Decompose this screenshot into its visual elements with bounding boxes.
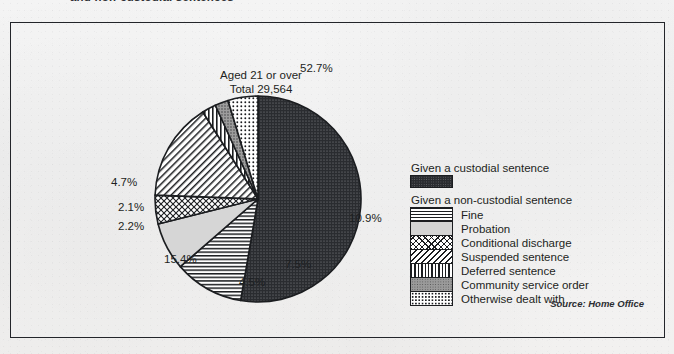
cut-off-section-heading: and non-custodial sentences	[70, 0, 370, 3]
legend-item-label: Community service order	[461, 279, 589, 291]
legend-swatch-fine	[411, 208, 452, 221]
legend-swatch-probation	[411, 222, 452, 235]
legend-item-list: FineProbationConditional dischargeSuspen…	[410, 207, 453, 306]
pie-percent-label: 15.4%	[164, 253, 197, 265]
legend-item-label: Suspended sentence	[461, 251, 569, 263]
legend-header-non-custodial: Given a non-custodial sentence	[411, 194, 640, 206]
pie-percent-label: 4.5%	[239, 276, 265, 288]
pie-percent-label: 52.7%	[300, 62, 333, 74]
source-note: Source: Home Office	[550, 298, 644, 309]
legend-swatch-custodial	[410, 175, 453, 188]
pie-percent-label: 2.1%	[118, 201, 144, 213]
legend-item-label: Fine	[461, 209, 483, 221]
legend-item-label: Otherwise dealt with	[461, 293, 565, 305]
legend-swatch-otherwise	[411, 292, 452, 305]
chart-legend: Given a custodial sentence Given a non-c…	[410, 162, 640, 306]
legend-item: Suspended sentence	[411, 249, 452, 263]
pie-chart	[152, 93, 364, 305]
legend-item: Fine	[411, 208, 452, 221]
legend-item-label: Deferred sentence	[461, 265, 556, 277]
legend-swatch-community	[411, 278, 452, 291]
legend-swatch-conditional	[411, 236, 452, 249]
legend-header-custodial: Given a custodial sentence	[411, 162, 640, 174]
chart-frame: Aged 21 or over Total 29,564	[10, 22, 665, 338]
legend-item: Conditional discharge	[411, 235, 452, 249]
legend-item: Probation	[411, 221, 452, 235]
legend-item: Community service order	[411, 277, 452, 291]
legend-item: Otherwise dealt with	[411, 291, 452, 305]
pie-svg	[152, 93, 364, 305]
legend-item-label: Probation	[461, 223, 510, 235]
legend-item: Deferred sentence	[411, 263, 452, 277]
legend-item-label: Conditional discharge	[461, 237, 572, 249]
pie-percent-label: 2.2%	[118, 220, 144, 232]
pie-percent-label: 7.5%	[285, 258, 311, 270]
pie-percent-label: 4.7%	[111, 176, 137, 188]
pie-percent-label: 10.9%	[349, 212, 382, 224]
pie-slice-group	[155, 96, 361, 302]
legend-swatch-deferred	[411, 264, 452, 277]
legend-swatch-suspended	[411, 250, 452, 263]
